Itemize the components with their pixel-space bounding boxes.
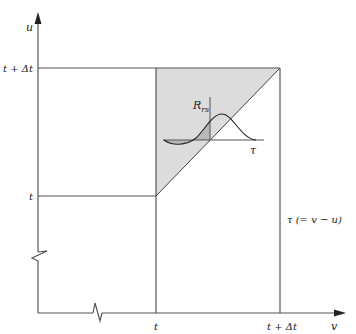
u-tick-t-plus-dt: t + Δt xyxy=(3,63,34,74)
v-axis-label: v xyxy=(331,320,338,333)
inset-x-label: τ xyxy=(250,144,257,157)
v-axis xyxy=(38,303,336,321)
tau-definition-label: τ (= v − u) xyxy=(287,214,342,225)
u-axis xyxy=(32,20,47,313)
integration-domain-diagram: u v t + Δt t t t + Δt τ (= v − u) Rrs τ xyxy=(0,0,356,334)
u-axis-label: u xyxy=(26,21,33,34)
v-axis-arrow-icon xyxy=(334,310,346,317)
u-tick-t: t xyxy=(29,191,34,202)
v-tick-t: t xyxy=(154,321,159,332)
v-tick-t-plus-dt: t + Δt xyxy=(267,321,298,332)
u-axis-arrow-icon xyxy=(35,12,42,24)
